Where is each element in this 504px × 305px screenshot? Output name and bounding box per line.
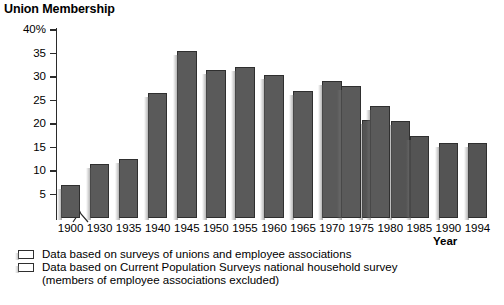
y-tick-label: 20 [33, 118, 46, 130]
chart-bar [370, 106, 390, 218]
bar-shadow [318, 85, 323, 220]
x-axis-title: Year [433, 235, 457, 247]
chart-bar [391, 121, 411, 218]
chart-bar [468, 143, 488, 218]
x-tick-label: 1955 [229, 222, 261, 234]
x-tick-label: 1900 [55, 222, 87, 234]
chart-bar [119, 159, 139, 218]
chart-bar [341, 86, 361, 218]
bar-shadow [260, 79, 265, 220]
chart-bar [264, 75, 284, 218]
legend-swatch-series-1 [18, 250, 34, 259]
legend-item: Data based on surveys of unions and empl… [18, 248, 498, 261]
chart-bar [206, 70, 226, 218]
legend-label-series-1: Data based on surveys of unions and empl… [42, 248, 351, 261]
y-tick-label: 30 [33, 71, 46, 83]
chart-bar [235, 67, 255, 218]
legend-item: Data based on Current Population Surveys… [18, 261, 498, 274]
y-tick-label: 5 [40, 189, 46, 201]
x-tick-label: 1965 [287, 222, 319, 234]
x-tick-label: 1950 [200, 222, 232, 234]
x-tick-label: 1930 [84, 222, 116, 234]
x-tick-label: 1994 [461, 222, 493, 234]
bar-shadow [144, 97, 149, 220]
legend-note: (members of employee associations exclud… [42, 274, 279, 287]
bar-shadow [173, 55, 178, 220]
bar-shadow [435, 147, 440, 220]
chart-bar [61, 185, 81, 218]
chart-legend: Data based on surveys of unions and empl… [18, 248, 498, 274]
x-tick-label: 1980 [374, 222, 406, 234]
bar-shadow [289, 95, 294, 220]
chart-bar [293, 91, 313, 218]
y-tick-label: 25 [33, 95, 46, 107]
x-tick-label: 1935 [113, 222, 145, 234]
chart-bar [90, 164, 110, 218]
y-tick-label: 15 [33, 142, 46, 154]
chart-bar [322, 81, 342, 218]
y-tick-label: 40% [23, 24, 46, 36]
plot-area [56, 30, 492, 218]
y-tick-label: 10 [33, 165, 46, 177]
bar-shadow [464, 147, 469, 220]
x-tick-label: 1970 [316, 222, 348, 234]
chart-bar [410, 136, 430, 218]
chart-bar [177, 51, 197, 218]
legend-label-series-2: Data based on Current Population Surveys… [42, 261, 397, 274]
y-tick-label: 35 [33, 48, 46, 60]
bar-shadow [202, 74, 207, 220]
x-tick-label: 1960 [258, 222, 290, 234]
bar-shadow [231, 71, 236, 220]
x-tick-label: 1975 [345, 222, 377, 234]
x-tick-label: 1985 [403, 222, 435, 234]
chart-title: Union Membership [4, 2, 115, 16]
bar-shadow [57, 189, 62, 220]
chart-bar [439, 143, 459, 218]
x-tick-label: 1990 [432, 222, 464, 234]
x-tick-label: 1945 [171, 222, 203, 234]
chart-bar [148, 93, 168, 218]
legend-swatch-series-2 [18, 263, 34, 272]
union-membership-chart: Union Membership 40%3530252015105 190019… [0, 0, 504, 305]
x-tick-label: 1940 [142, 222, 174, 234]
bar-shadow [115, 163, 120, 220]
